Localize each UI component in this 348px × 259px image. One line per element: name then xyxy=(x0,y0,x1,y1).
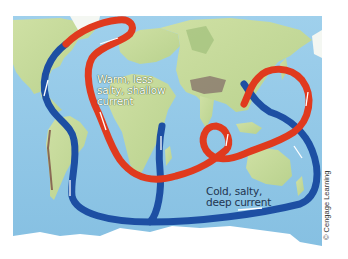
warm-current-label-line-3: current xyxy=(97,96,165,107)
cold-current-label: Cold, salty, deep current xyxy=(206,186,271,208)
world-map xyxy=(0,0,348,259)
warm-current-label: Warm, less salty, shallow current xyxy=(97,74,165,107)
cold-current-label-line-2: deep current xyxy=(206,197,271,208)
ocean-conveyor-figure: Warm, less salty, shallow current Cold, … xyxy=(0,0,348,259)
copyright-credit: © Cengage Learning xyxy=(322,171,331,240)
